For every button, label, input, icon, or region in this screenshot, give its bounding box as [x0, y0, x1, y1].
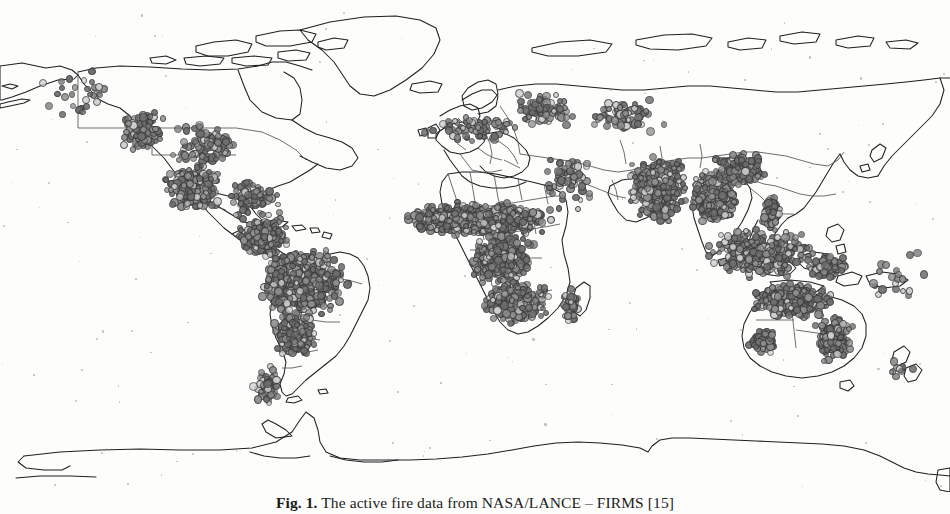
figure-label: Fig. 1. [276, 494, 318, 511]
figure-caption-text: The active fire data from NASA/LANCE – F… [318, 494, 674, 511]
world-map [0, 0, 950, 492]
figure-caption: Fig. 1. The active fire data from NASA/L… [0, 494, 950, 512]
map-background [0, 0, 950, 492]
map-basemap-svg [0, 0, 950, 492]
figure-container: Fig. 1. The active fire data from NASA/L… [0, 0, 950, 514]
